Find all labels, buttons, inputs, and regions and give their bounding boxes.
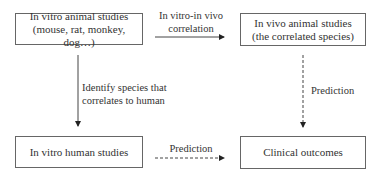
node-label-line1: In vitro animal studies xyxy=(30,10,129,23)
edge-label-line1: In vitro-in vivo xyxy=(150,9,232,22)
edge-label-identify-species: Identify species that correlates to huma… xyxy=(82,81,167,107)
node-label-line1: Clinical outcomes xyxy=(263,146,343,159)
node-in-vitro-animal-studies: In vitro animal studies (mouse, rat, mon… xyxy=(15,13,143,45)
edge-label-line2: correlates to human xyxy=(82,94,167,107)
node-clinical-outcomes: Clinical outcomes xyxy=(240,136,366,169)
node-in-vivo-animal-studies: In vivo animal studies (the correlated s… xyxy=(240,13,366,46)
edge-label-line2: correlation xyxy=(150,22,232,35)
node-label-line1: In vivo animal studies xyxy=(254,17,351,30)
edge-label-text: Prediction xyxy=(311,85,354,96)
edge-label-prediction-bottom: Prediction xyxy=(150,142,232,155)
edge-label-ivivc: In vitro-in vivo correlation xyxy=(150,9,232,35)
node-in-vitro-human-studies: In vitro human studies xyxy=(15,136,143,168)
node-label-line2: (the correlated species) xyxy=(252,30,354,43)
node-label-line1: In vitro human studies xyxy=(30,146,129,159)
edge-label-line1: Identify species that xyxy=(82,81,167,94)
node-label-line2: (mouse, rat, monkey, dog…) xyxy=(16,23,142,49)
edge-label-prediction-right: Prediction xyxy=(311,84,354,97)
edge-label-text: Prediction xyxy=(169,143,212,154)
